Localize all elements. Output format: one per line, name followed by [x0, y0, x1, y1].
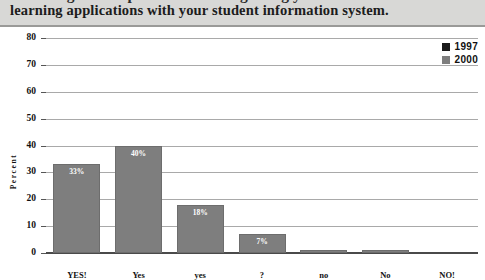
x-tick-label: yes	[169, 270, 231, 280]
y-tick-label: 50	[10, 113, 36, 123]
bar-: 7%	[239, 234, 286, 253]
x-tick-label: YES!	[46, 270, 108, 280]
bar-value-label: 33%	[54, 167, 99, 176]
bar-value-label: 1%	[363, 253, 408, 262]
gridline	[46, 119, 478, 120]
bar-No: 1%	[362, 250, 409, 253]
y-tick-label: 80	[10, 32, 36, 42]
y-tick-mark	[41, 146, 46, 147]
x-tick-label: Yes	[108, 270, 170, 280]
y-tick-label: 20	[10, 193, 36, 203]
y-tick-mark	[41, 253, 46, 254]
y-tick-mark	[41, 172, 46, 173]
gridline	[46, 38, 478, 39]
gridline	[46, 226, 478, 227]
chart-container: Percent 19972000 0102030405060708033%YES…	[0, 27, 485, 274]
y-tick-label: 70	[10, 59, 36, 69]
plot-area: 0102030405060708033%YES!40%Yes18%yes7%?1…	[46, 38, 478, 253]
bar-yes: 18%	[177, 205, 224, 253]
y-tick-label: 40	[10, 140, 36, 150]
y-tick-mark	[41, 38, 46, 39]
bar-Yes: 40%	[115, 146, 162, 254]
bar-no: 1%	[300, 250, 347, 253]
y-tick-mark	[41, 65, 46, 66]
x-tick-label: ?	[231, 270, 293, 280]
x-tick-label: No	[355, 270, 417, 280]
y-tick-mark	[41, 119, 46, 120]
y-tick-label: 30	[10, 166, 36, 176]
header-title-text: learning applications with your student …	[10, 2, 480, 19]
bar-YES: 33%	[53, 164, 100, 253]
gridline	[46, 172, 478, 173]
y-tick-label: 10	[10, 220, 36, 230]
gridline	[46, 146, 478, 147]
gridline	[46, 65, 478, 66]
y-tick-label: 60	[10, 86, 36, 96]
header-band: knowledge of the potential for integrati…	[0, 0, 485, 25]
gridline	[46, 92, 478, 93]
x-tick-label: no	[293, 270, 355, 280]
gridline	[46, 199, 478, 200]
y-tick-label: 0	[10, 247, 36, 257]
bar-value-label: 18%	[178, 208, 223, 217]
x-tick-label: NO!	[416, 270, 478, 280]
y-tick-mark	[41, 226, 46, 227]
bar-value-label: 1%	[301, 253, 346, 262]
bar-value-label: 7%	[240, 237, 285, 246]
y-tick-mark	[41, 199, 46, 200]
bar-value-label: 40%	[116, 149, 161, 158]
y-tick-mark	[41, 92, 46, 93]
